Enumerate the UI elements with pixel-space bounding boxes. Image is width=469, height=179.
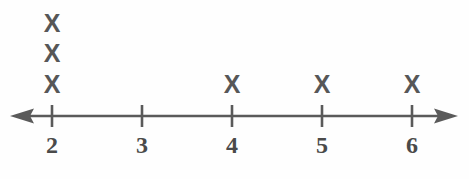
x-mark-value-4-stack-1: X	[224, 72, 241, 97]
dot-plot-figure: XXXXXX 23456	[0, 0, 469, 179]
axis-group	[10, 109, 458, 124]
x-mark-value-2-stack-3: X	[44, 11, 61, 36]
x-mark-value-5-stack-1: X	[314, 72, 331, 97]
x-mark-value-6-stack-1: X	[404, 72, 421, 97]
axis-tick-label-2: 2	[46, 133, 58, 157]
x-mark-value-2-stack-2: X	[44, 41, 61, 66]
axis-tick-label-4: 4	[226, 133, 238, 157]
axis-tick-label-5: 5	[316, 133, 328, 157]
axis-tick-label-3: 3	[136, 133, 148, 157]
axis-tick-label-6: 6	[406, 133, 418, 157]
x-mark-value-2-stack-1: X	[44, 72, 61, 97]
